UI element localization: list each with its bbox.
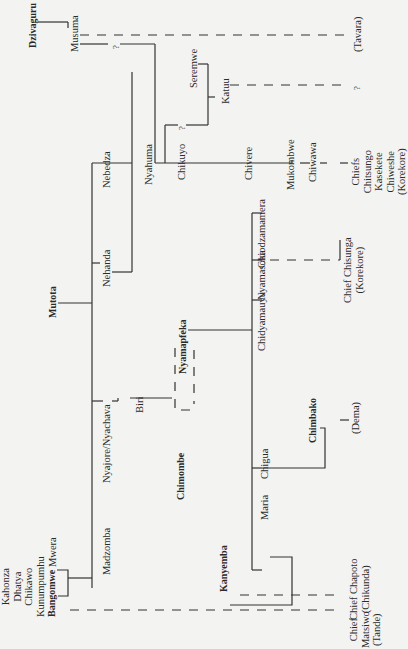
- node-nehanda: Nehanda: [101, 250, 112, 287]
- node-dzivaguru: Dzivaguru: [27, 3, 38, 48]
- node-mutota: Mutota: [47, 286, 58, 318]
- node-dema: (Dema): [350, 402, 361, 434]
- node-mwera: Mwera: [47, 537, 58, 567]
- node-chiefs-korekore: Chiefs Chitsungo Kasekete Chiweshe (Kore…: [350, 148, 408, 195]
- node-tavara: (Tavara): [352, 17, 363, 52]
- node-maria: Maria: [259, 495, 270, 520]
- node-chigua: Chigua: [259, 449, 270, 479]
- node-chidyamauyu: Chidyamauyu: [256, 292, 267, 351]
- node-seremwe: Seremwe: [188, 49, 199, 88]
- node-mukombwe: Mukombwe: [285, 139, 296, 190]
- node-nyamapfeka: Nyamapfeka: [177, 320, 188, 374]
- node-unknown-2: ?: [177, 126, 187, 130]
- node-chief-chisunga: Chief Chisunga (Korekore): [342, 237, 365, 303]
- node-chivere: Chivere: [243, 147, 254, 180]
- node-madzomba: Madzomba: [101, 528, 112, 575]
- node-katuu: Katuu: [220, 78, 231, 104]
- node-chimombe: Chimombe: [175, 453, 186, 500]
- node-unknown-1: ?: [111, 45, 121, 49]
- node-chikuyo: Chikuyo: [176, 144, 187, 180]
- node-nyahuma: Nyahuma: [143, 144, 154, 185]
- node-kanyemba: Kanyemba: [218, 545, 229, 592]
- node-nebedza: Nebedza: [101, 151, 112, 188]
- node-chimbako: Chimbako: [307, 398, 318, 443]
- node-nyajore-nyachava: Nyajore/Nyachava: [101, 404, 112, 483]
- node-biri: Biri: [134, 397, 145, 413]
- node-chiwawa: Chiwawa: [307, 142, 318, 182]
- node-bangomwe: Bangomwe: [46, 570, 57, 617]
- node-ancestors: Kahonza Dhatya Chikawo Kunumpumhu: [0, 556, 46, 617]
- node-musuma: Musuma: [69, 15, 80, 52]
- node-chief-matsiwo: Chief Matsiwo (Tande): [348, 611, 383, 648]
- node-unknown-3: ?: [352, 86, 362, 90]
